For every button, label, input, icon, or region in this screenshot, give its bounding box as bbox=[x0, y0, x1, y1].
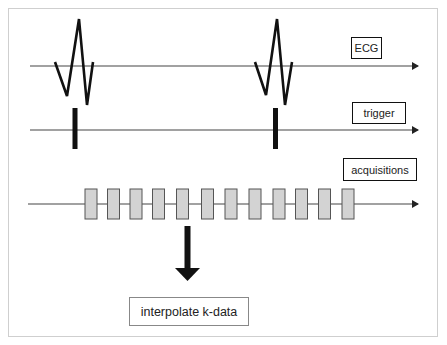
trigger-marker-2 bbox=[273, 108, 278, 149]
trigger-marker-1 bbox=[73, 108, 78, 149]
acquisition-block bbox=[108, 189, 120, 219]
interpolate-k-data-box: interpolate k-data bbox=[129, 297, 249, 326]
ecg-waveform-2 bbox=[255, 19, 292, 105]
acquisition-block bbox=[177, 189, 189, 219]
acquisition-block bbox=[85, 189, 97, 219]
acquisition-block bbox=[342, 189, 354, 219]
acquisition-block bbox=[273, 189, 285, 219]
acquisition-block bbox=[153, 189, 165, 219]
acquisitions-track bbox=[28, 189, 418, 219]
acquisition-block bbox=[296, 189, 308, 219]
acquisition-block bbox=[130, 189, 142, 219]
trigger-label: trigger bbox=[352, 102, 406, 124]
ecg-waveform-1 bbox=[55, 19, 93, 105]
acquisitions-label: acquisitions bbox=[343, 158, 417, 181]
acquisition-block bbox=[225, 189, 237, 219]
down-arrow-icon bbox=[175, 226, 200, 281]
acquisition-block bbox=[319, 189, 331, 219]
ecg-track bbox=[30, 19, 418, 105]
acquisition-block bbox=[202, 189, 214, 219]
acquisition-block bbox=[249, 189, 261, 219]
ecg-label: ECG bbox=[351, 37, 382, 59]
